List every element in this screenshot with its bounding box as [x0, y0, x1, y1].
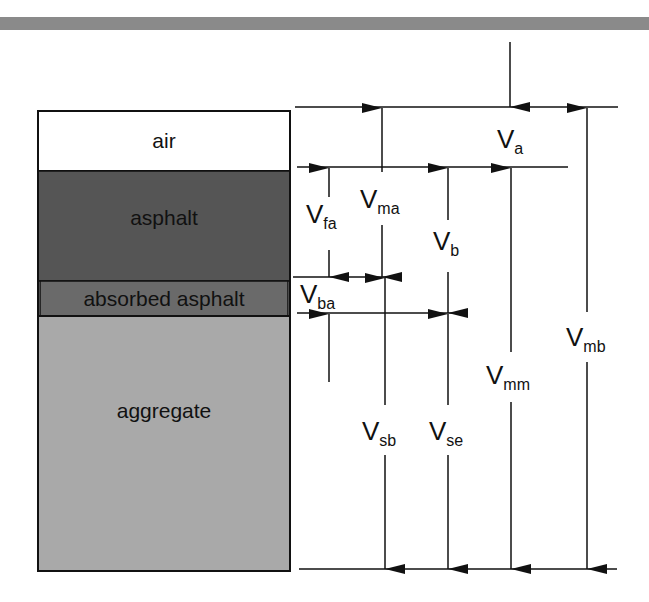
aggregate-layer: [38, 316, 290, 571]
vba-label: Vba: [300, 279, 335, 312]
dimension-arrows: [329, 42, 587, 569]
va-label: Va: [497, 124, 523, 157]
asphalt-label: asphalt: [130, 206, 198, 229]
volume-labels: Va Vma Vfa Vb Vba Vmb Vmm Vsb Vse: [300, 124, 606, 449]
vmb-label: Vmb: [566, 322, 606, 355]
absorbed-asphalt-label: absorbed asphalt: [83, 287, 244, 310]
vb-label: Vb: [433, 226, 459, 259]
vsb-label: Vsb: [362, 416, 396, 449]
air-label: air: [152, 129, 175, 152]
aggregate-label: aggregate: [117, 399, 212, 422]
volumetric-diagram: air asphalt absorbed asphalt aggregate: [0, 0, 649, 602]
vse-label: Vse: [429, 416, 463, 449]
vfa-label: Vfa: [306, 199, 337, 232]
vma-label: Vma: [360, 184, 400, 217]
vmm-label: Vmm: [486, 360, 530, 393]
layer-stack: air asphalt absorbed asphalt aggregate: [38, 111, 290, 571]
